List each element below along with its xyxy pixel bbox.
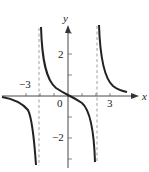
x-tick-label-neg3: −3 <box>19 78 31 90</box>
curve-right-branch <box>99 25 127 92</box>
x-tick-label-3: 3 <box>107 97 113 109</box>
x-axis-label: x <box>141 90 147 102</box>
x-tick-label-0: 0 <box>57 97 63 109</box>
y-tick-label-neg2: −2 <box>52 131 64 143</box>
x-axis-arrow-icon <box>131 93 139 99</box>
y-tick-label-2: 2 <box>58 48 64 60</box>
curve-left-branch <box>2 97 36 165</box>
tangent-graph: x y −3 0 3 2 −2 <box>0 0 149 172</box>
y-axis-label: y <box>62 12 68 24</box>
y-axis-arrow-icon <box>65 25 71 33</box>
